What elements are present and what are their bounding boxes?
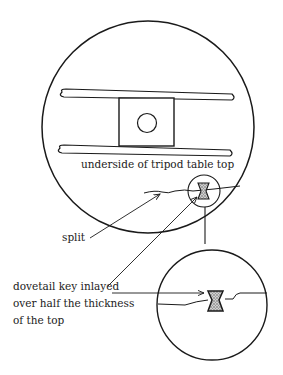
enlarged-dovetail-key bbox=[208, 291, 223, 311]
enlarged-top-surface-line bbox=[225, 293, 267, 299]
label-key-line-3: of the top bbox=[13, 312, 64, 328]
label-key-line-2: over half the thickness bbox=[13, 295, 134, 311]
enlarged-split-line bbox=[158, 300, 208, 305]
split-line bbox=[144, 186, 240, 193]
caption-underside: underside of tripod table top bbox=[81, 156, 234, 172]
split-leader-arrow bbox=[90, 194, 160, 238]
center-block bbox=[119, 98, 174, 146]
label-split: split bbox=[62, 229, 85, 245]
label-key-line-1: dovetail key inlayed bbox=[13, 278, 119, 294]
key-leader-arrow bbox=[108, 197, 197, 286]
small-dovetail-key bbox=[198, 183, 209, 199]
